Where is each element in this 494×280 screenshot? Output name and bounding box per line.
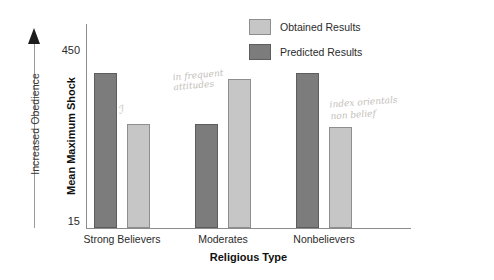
x-axis-line bbox=[86, 228, 411, 229]
category-label-nonbelievers: Nonbelievers bbox=[264, 233, 384, 245]
bar-strong-believers-obtained-results bbox=[127, 124, 150, 228]
bar-nonbelievers-predicted-results bbox=[296, 73, 319, 228]
x-axis-title: Religious Type bbox=[86, 251, 411, 263]
legend-item-predicted: Predicted Results bbox=[249, 41, 362, 62]
y-tick-label-top: 450 bbox=[46, 44, 80, 56]
legend-item-obtained: Obtained Results bbox=[249, 16, 362, 37]
bar-chart-figure: Increased Obedience 450 15 Mean Maximum … bbox=[0, 0, 494, 280]
legend: Obtained Results Predicted Results bbox=[249, 16, 362, 66]
obedience-axis-label: Increased Obedience bbox=[29, 44, 41, 204]
bar-moderates-obtained-results bbox=[228, 79, 251, 228]
obedience-direction-indicator: Increased Obedience bbox=[18, 28, 52, 228]
predicted-swatch-icon bbox=[249, 44, 271, 60]
y-axis-title: Mean Maximum Shock bbox=[65, 61, 77, 211]
bar-moderates-predicted-results bbox=[195, 124, 218, 228]
bar-strong-believers-predicted-results bbox=[94, 73, 117, 228]
legend-label-obtained: Obtained Results bbox=[280, 21, 361, 33]
legend-label-predicted: Predicted Results bbox=[280, 46, 362, 58]
up-arrow-icon bbox=[28, 28, 40, 44]
bar-nonbelievers-obtained-results bbox=[329, 127, 352, 228]
y-tick-label-bottom: 15 bbox=[46, 215, 80, 227]
obtained-swatch-icon bbox=[249, 19, 271, 35]
